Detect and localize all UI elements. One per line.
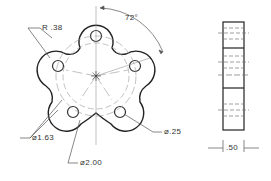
- thickness-label: .50: [226, 143, 238, 152]
- outer-circle-label: ⌀2.00: [80, 158, 102, 167]
- hole-diameter-label: ⌀.25: [164, 127, 181, 136]
- side-view: [223, 22, 244, 130]
- bolt-holes: [53, 31, 141, 118]
- bolt-circle-label: ⌀1.63: [32, 133, 54, 142]
- angle-label: 72°: [125, 13, 138, 22]
- center-mark: [91, 71, 101, 81]
- technical-drawing: [0, 0, 271, 181]
- radius-label: R .38: [42, 23, 63, 32]
